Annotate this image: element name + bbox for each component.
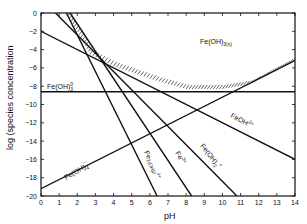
fe-oh2-label: Fe(OH)2+	[198, 141, 225, 171]
x-axis-ticks: 01234567891011121314	[39, 13, 299, 206]
x-tick-label: 0	[39, 199, 43, 206]
x-tick-label: 4	[112, 199, 116, 206]
fe3-label: Fe3+	[174, 149, 189, 166]
x-tick-label: 14	[291, 199, 299, 206]
x-tick-label: 2	[75, 199, 79, 206]
feoh-label: FeOH2+	[230, 110, 256, 129]
x-tick-label: 10	[219, 199, 227, 206]
y-tick-label: −18	[25, 174, 37, 181]
y-tick-label: −2	[29, 28, 37, 35]
y-tick-label: −10	[25, 101, 37, 108]
fe-oh4-label: Fe(OH)4−	[62, 159, 91, 183]
y-tick-label: −12	[25, 119, 37, 126]
x-tick-label: 5	[130, 199, 134, 206]
fe-oh3-label: Fe(OH)30	[47, 81, 73, 92]
x-tick-label: 1	[57, 199, 61, 206]
fe2-oh2-label: Fe2(OH)24+	[142, 149, 163, 181]
y-axis-label: log (species concentration	[5, 45, 15, 150]
y-tick-label: −8	[29, 83, 37, 90]
y-tick-label: −4	[29, 46, 37, 53]
y-tick-label: −6	[29, 64, 37, 71]
y-tick-label: −14	[25, 138, 37, 145]
x-tick-label: 6	[148, 199, 152, 206]
x-tick-label: 12	[255, 199, 263, 206]
x-tick-label: 11	[237, 199, 244, 206]
x-tick-label: 9	[202, 199, 206, 206]
x-axis-label: pH	[164, 211, 176, 221]
x-tick-label: 8	[184, 199, 188, 206]
x-tick-label: 3	[93, 199, 97, 206]
x-tick-label: 7	[166, 199, 170, 206]
x-tick-label: 13	[273, 199, 281, 206]
y-tick-label: −20	[25, 193, 37, 200]
solid-region-label: Fe(OH)3(s)	[200, 38, 232, 47]
solubility-chart: 01234567891011121314 0−2−4−6−8−10−12−14−…	[0, 0, 307, 224]
y-tick-label: 0	[33, 10, 37, 17]
y-tick-label: −16	[25, 156, 37, 163]
species-line	[41, 31, 295, 159]
